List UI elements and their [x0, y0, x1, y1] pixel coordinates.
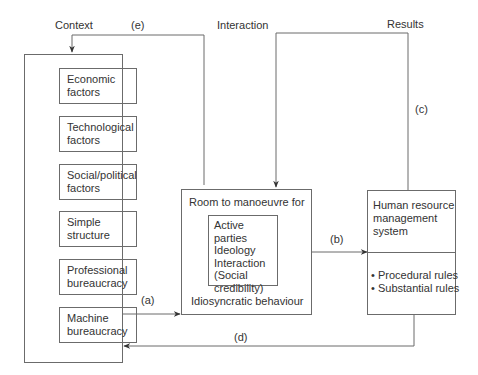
label-context: Context: [55, 19, 93, 32]
label-b: (b): [330, 233, 343, 246]
arrow-d: [124, 314, 414, 346]
room-to-manoeuvre-box: Room to manoeuvre for Active parties Ide…: [181, 189, 312, 315]
room-to-manoeuvre-title: Room to manoeuvre for: [189, 196, 305, 209]
label-results: Results: [387, 18, 424, 31]
context-box: Economic factors Technological factors S…: [24, 54, 123, 363]
context-item-economic: Economic factors: [59, 68, 137, 104]
label-e: (e): [131, 19, 144, 32]
hrm-rules-list: • Procedural rules • Substantial rules: [371, 269, 459, 295]
label-c: (c): [415, 103, 428, 116]
context-item-social-political: Social/political factors: [59, 164, 137, 200]
context-item-professional-bureaucracy: Professional bureaucracy: [59, 259, 137, 295]
context-item-simple-structure: Simple structure: [59, 211, 137, 247]
rule-item: • Substantial rules: [371, 282, 459, 295]
context-item-machine-bureaucracy: Machine bureaucracy: [59, 307, 137, 343]
arrow-c: [276, 33, 408, 190]
context-item-technological: Technological factors: [59, 116, 137, 152]
hrm-system-box: Human resource management system • Proce…: [367, 190, 456, 315]
idiosyncratic-behaviour-label: Idiosyncratic behaviour: [191, 295, 304, 308]
rule-item: • Procedural rules: [371, 269, 459, 282]
room-inner-box: Active parties Ideology Interaction (Soc…: [208, 215, 278, 286]
hrm-title: Human resource management system: [373, 199, 454, 238]
label-interaction: Interaction: [217, 19, 268, 32]
hrm-divider: [368, 252, 455, 253]
label-d: (d): [234, 331, 247, 344]
label-a: (a): [141, 294, 154, 307]
